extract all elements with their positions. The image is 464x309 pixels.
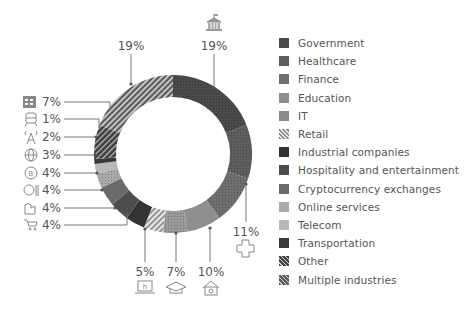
label-hospitality: 4% — [42, 183, 61, 197]
legend-item: IT — [279, 107, 459, 125]
legend-label: Finance — [298, 73, 339, 85]
train-icon — [25, 113, 37, 126]
bitcoin-icon: B — [25, 167, 37, 179]
svg-text:B: B — [29, 170, 34, 178]
legend-swatch — [279, 56, 289, 66]
fork-knife-icon — [24, 185, 38, 196]
legend-swatch — [279, 275, 289, 285]
legend-swatch — [279, 202, 289, 212]
legend-label: Retail — [298, 128, 328, 140]
legend-swatch — [279, 111, 289, 121]
donut-ring — [94, 75, 252, 233]
laptop-icon: h — [135, 281, 155, 293]
label-transportation: 1% — [42, 112, 61, 126]
legend-label: Government — [298, 37, 364, 49]
legend-item: Online services — [279, 198, 459, 216]
legend-label: Industrial companies — [298, 146, 410, 158]
label-finance: 10% — [198, 265, 225, 279]
graduation-cap-icon — [166, 282, 186, 293]
legend-item: Healthcare — [279, 52, 459, 70]
legend-swatch — [279, 220, 289, 230]
building-grid-icon — [23, 96, 36, 108]
label-industrial: 4% — [42, 201, 61, 215]
label-healthcare: 11% — [233, 225, 260, 239]
bank-icon — [203, 281, 219, 295]
government-building-icon — [206, 14, 222, 31]
legend-item: Telecom — [279, 216, 459, 234]
legend-label: Telecom — [298, 219, 342, 231]
legend-swatch — [279, 38, 289, 48]
label-crypto: 4% — [42, 166, 61, 180]
legend-item: Transportation — [279, 234, 459, 252]
label-multiple-industries: 19% — [118, 39, 145, 53]
legend-swatch — [279, 184, 289, 194]
legend-label: Healthcare — [298, 55, 356, 67]
legend-label: Multiple industries — [298, 274, 397, 286]
legend-item: Industrial companies — [279, 143, 459, 161]
legend-label: Online services — [298, 201, 380, 213]
segment-texture — [163, 210, 188, 233]
legend-label: Hospitality and entertainment — [298, 164, 459, 176]
legend-label: IT — [298, 110, 308, 122]
legend-swatch — [279, 129, 289, 139]
legend-item: Multiple industries — [279, 270, 459, 288]
segment-texture — [226, 125, 252, 178]
legend: GovernmentHealthcareFinanceEducationITRe… — [279, 34, 459, 289]
legend-swatch — [279, 256, 289, 266]
medical-cross-icon — [237, 240, 254, 257]
segment-texture — [173, 75, 246, 133]
label-telecom: 2% — [42, 130, 61, 144]
legend-item: Education — [279, 89, 459, 107]
label-education: 7% — [166, 265, 185, 279]
label-retail: 4% — [42, 218, 61, 232]
label-it: 5% — [135, 265, 154, 279]
label-government: 19% — [201, 39, 228, 53]
svg-text:h: h — [143, 283, 147, 291]
segment-multiple-industries — [100, 75, 173, 133]
legend-label: Cryptocurrency exchanges — [298, 183, 441, 195]
legend-item: Retail — [279, 125, 459, 143]
antenna-tower-icon — [25, 131, 37, 144]
shopping-cart-icon — [24, 220, 37, 230]
label-online-services: 3% — [42, 148, 61, 162]
legend-swatch — [279, 93, 289, 103]
legend-label: Other — [298, 255, 328, 267]
label-other: 7% — [42, 95, 61, 109]
legend-swatch — [279, 147, 289, 157]
legend-swatch — [279, 238, 289, 248]
legend-swatch — [279, 165, 289, 175]
factory-icon — [25, 204, 35, 215]
legend-label: Education — [298, 92, 351, 104]
legend-swatch — [279, 74, 289, 84]
legend-item: Finance — [279, 70, 459, 88]
legend-item: Hospitality and entertainment — [279, 161, 459, 179]
legend-label: Transportation — [298, 237, 375, 249]
legend-item: Other — [279, 252, 459, 270]
globe-icon — [25, 149, 37, 161]
legend-item: Cryptocurrency exchanges — [279, 180, 459, 198]
legend-item: Government — [279, 34, 459, 52]
